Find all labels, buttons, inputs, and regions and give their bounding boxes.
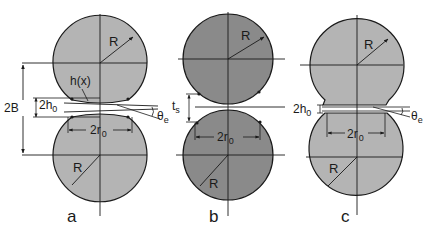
radius-label: R [209,176,218,191]
gap-label: 2B [4,101,19,115]
angle-arc [152,107,154,116]
neck-point [257,90,260,93]
angle-arc [401,108,403,115]
panel-c: R R 2h0 2r0 θe c [293,15,423,226]
radius-label: R [329,161,338,176]
neck-point [126,97,129,100]
bottom-particle-c [309,113,403,195]
radius-label: R [73,160,82,175]
angle-label: θe [411,109,423,125]
panel-caption: b [209,207,218,226]
neck-gap-label: 2h0 [293,102,311,118]
profile-label: h(x) [70,74,91,88]
panel-b: R R ts 2r0 b [172,12,285,226]
neck-gap-label: 2h0 [39,98,57,114]
radius-label: R [364,37,373,52]
radius-label: R [109,34,118,49]
particle-neck-diagram: R R h(x) 2B 2h0 2r0 θe a R R ts 2r0 [0,0,439,234]
radius-label: R [241,28,250,43]
panel-caption: c [341,207,350,226]
panel-a: R R h(x) 2B 2h0 2r0 θe a [4,14,169,226]
angle-label: θe [157,109,169,125]
separation-label: ts [172,99,180,115]
panel-caption: a [67,207,77,226]
neck-point [126,115,129,118]
